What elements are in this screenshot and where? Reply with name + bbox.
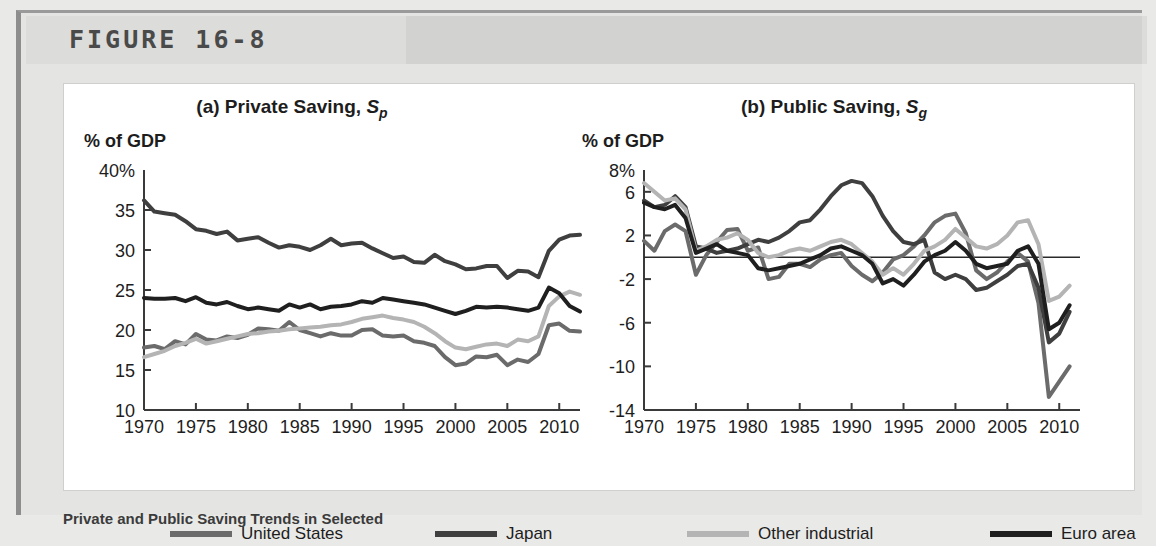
svg-text:1990: 1990 <box>332 417 372 437</box>
svg-text:1985: 1985 <box>280 417 320 437</box>
svg-text:1975: 1975 <box>176 417 216 437</box>
svg-text:1995: 1995 <box>884 417 924 437</box>
svg-text:2010: 2010 <box>1039 417 1079 437</box>
axis-unit-public: % of GDP <box>582 131 664 152</box>
figure-header-tint <box>406 16 1142 64</box>
svg-text:1980: 1980 <box>728 417 768 437</box>
plot-private-saving: 10152025303540%1970197519801985199019952… <box>72 162 592 452</box>
figure-label: FIGURE 16-8 <box>69 25 268 54</box>
figure-caption-text: Private and Public Saving Trends in Sele… <box>63 510 1156 528</box>
panel-title-private-text: (a) Private Saving, <box>196 96 366 117</box>
svg-text:40%: 40% <box>99 162 135 181</box>
svg-text:-10: -10 <box>609 357 635 377</box>
svg-text:1990: 1990 <box>832 417 872 437</box>
panel-title-public-symbol: S <box>906 96 919 117</box>
figure-frame: FIGURE 16-8 (a) Private Saving, Sp (b) P… <box>16 10 1142 515</box>
legend-swatch-japan <box>435 531 497 537</box>
svg-text:15: 15 <box>115 361 135 381</box>
svg-text:8%: 8% <box>609 162 635 181</box>
svg-text:1970: 1970 <box>124 417 164 437</box>
svg-text:2000: 2000 <box>435 417 475 437</box>
figure-caption: Private and Public Saving Trends in Sele… <box>63 510 1156 528</box>
svg-text:30: 30 <box>115 241 135 261</box>
plot-public-saving: -14-10-6-2268%19701975198019851990199520… <box>572 162 1092 452</box>
svg-text:6: 6 <box>625 183 635 203</box>
legend-swatch-other-industrial <box>687 531 749 537</box>
panel-title-private: (a) Private Saving, Sp <box>82 96 502 121</box>
svg-text:35: 35 <box>115 201 135 221</box>
svg-text:1985: 1985 <box>780 417 820 437</box>
svg-text:2000: 2000 <box>935 417 975 437</box>
axis-unit-private: % of GDP <box>84 131 166 152</box>
svg-text:2: 2 <box>625 226 635 246</box>
legend-swatch-euro-area <box>990 531 1052 537</box>
svg-text:25: 25 <box>115 281 135 301</box>
panel-title-private-subscript: p <box>379 105 388 121</box>
svg-text:1970: 1970 <box>624 417 664 437</box>
svg-text:1995: 1995 <box>384 417 424 437</box>
panel-title-public-text: (b) Public Saving, <box>741 96 906 117</box>
svg-text:1975: 1975 <box>676 417 716 437</box>
svg-text:2005: 2005 <box>487 417 527 437</box>
svg-text:20: 20 <box>115 321 135 341</box>
chart-white-panel: (a) Private Saving, Sp (b) Public Saving… <box>63 83 1135 491</box>
panel-title-public: (b) Public Saving, Sg <box>624 96 1044 121</box>
svg-text:-6: -6 <box>619 314 635 334</box>
svg-text:2005: 2005 <box>987 417 1027 437</box>
panel-title-private-symbol: S <box>366 96 379 117</box>
svg-text:1980: 1980 <box>228 417 268 437</box>
legend-swatch-united-states <box>170 531 232 537</box>
panel-title-public-subscript: g <box>918 105 927 121</box>
svg-text:-2: -2 <box>619 270 635 290</box>
